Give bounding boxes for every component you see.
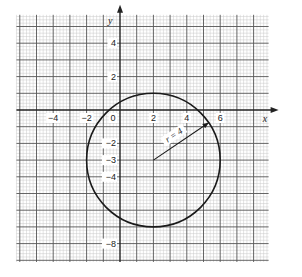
x-tick-label: −2 bbox=[81, 113, 91, 123]
y-tick-label: −8 bbox=[106, 239, 116, 249]
x-axis-arrow-icon bbox=[271, 107, 279, 113]
x-axis-label: x bbox=[262, 113, 268, 124]
major-grid bbox=[16, 15, 268, 262]
y-tick-label: −2 bbox=[106, 138, 116, 148]
y-axis-arrow-icon bbox=[117, 5, 123, 13]
x-tick-label: 4 bbox=[184, 113, 189, 123]
circle-graph: r = 4 −4−2024642−2−3−4−8 x y bbox=[0, 0, 302, 277]
y-tick-label: 2 bbox=[111, 72, 116, 82]
y-tick-label: −4 bbox=[106, 172, 116, 182]
y-axis-label: y bbox=[107, 15, 113, 26]
x-tick-label: 0 bbox=[110, 113, 115, 123]
x-tick-label: −4 bbox=[48, 113, 58, 123]
x-tick-label: 6 bbox=[218, 113, 223, 123]
y-tick-label: −3 bbox=[106, 155, 116, 165]
y-tick-label: 4 bbox=[111, 38, 116, 48]
minor-grid bbox=[16, 15, 268, 262]
x-tick-label: 2 bbox=[151, 113, 156, 123]
